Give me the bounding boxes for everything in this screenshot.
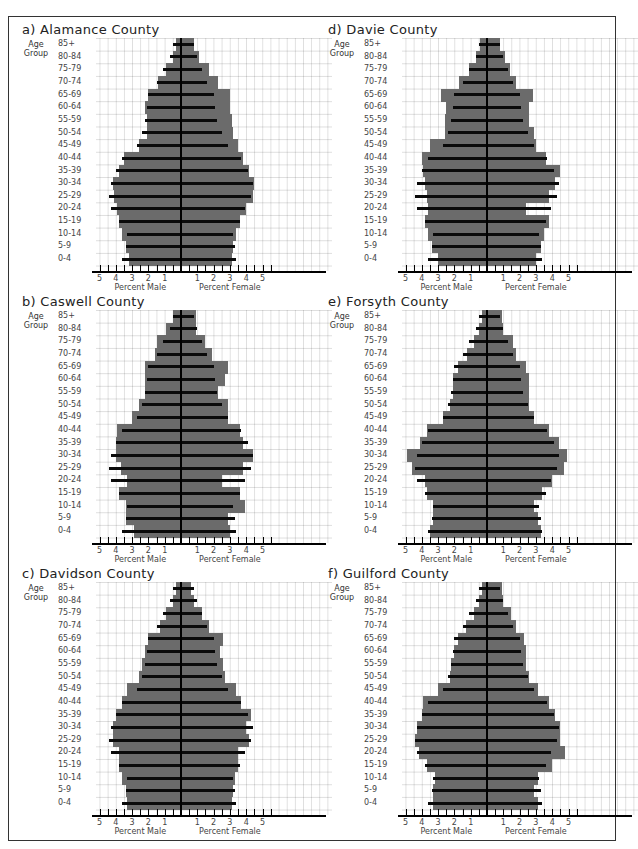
age-row-label: 20-24 [364, 203, 398, 212]
x-axis-tick [108, 265, 109, 271]
x-tick-label: 1 [468, 546, 473, 555]
x-tick-label: 4 [550, 818, 555, 827]
age-row-label: 55-59 [364, 115, 398, 124]
reference-bar [428, 701, 547, 704]
age-row-label: 50-54 [364, 400, 398, 409]
percent-female-label: Percent Female [505, 555, 567, 564]
x-axis-tick [157, 265, 158, 271]
reference-bar [469, 340, 508, 343]
age-row-label: 25-29 [364, 735, 398, 744]
age-row-label: 75-79 [58, 64, 92, 73]
age-row-label: 80-84 [364, 52, 398, 61]
x-axis-tick [487, 265, 488, 271]
age-row-label: 80-84 [364, 596, 398, 605]
reference-bar [428, 429, 547, 432]
reference-bar [443, 144, 534, 147]
age-row-label: 75-79 [364, 336, 398, 345]
x-axis-tick [511, 265, 512, 271]
x-tick-label: 2 [517, 546, 522, 555]
x-axis-tick [173, 265, 174, 271]
panel-title: f) Guilford County [328, 566, 449, 581]
x-axis-tick [173, 809, 174, 815]
age-row-label: 75-79 [58, 608, 92, 617]
x-axis-tick [271, 537, 272, 543]
age-row-label: 70-74 [364, 349, 398, 358]
reference-bar [422, 441, 554, 444]
age-row-label: 15-19 [364, 488, 398, 497]
reference-bar [173, 315, 194, 318]
x-axis-tick [454, 537, 455, 543]
age-row-label: 60-64 [364, 102, 398, 111]
x-axis-tick [181, 809, 182, 815]
reference-bar [116, 441, 248, 444]
percent-female-label: Percent Female [199, 283, 261, 292]
x-tick-label: 3 [436, 818, 441, 827]
age-row-label: 20-24 [364, 747, 398, 756]
x-tick-label: 4 [113, 818, 118, 827]
x-tick-label: 4 [113, 274, 118, 283]
age-row-label: 5-9 [364, 513, 398, 522]
x-axis-tick [100, 537, 101, 543]
x-axis-tick [181, 265, 182, 271]
age-row-label: 5-9 [58, 241, 92, 250]
age-row-label: 30-34 [58, 722, 92, 731]
x-axis-tick [577, 537, 578, 543]
x-tick-label: 1 [195, 818, 200, 827]
x-axis-tick [246, 809, 247, 815]
reference-bar [479, 587, 500, 590]
x-axis-tick [511, 537, 512, 543]
x-tick-label: 1 [195, 274, 200, 283]
x-axis-tick [414, 809, 415, 815]
x-axis-tick [438, 265, 439, 271]
age-row-label: 50-54 [364, 128, 398, 137]
center-axis-line [180, 310, 182, 543]
age-row-label: 50-54 [58, 400, 92, 409]
age-row-label: 20-24 [58, 747, 92, 756]
x-tick-label: 4 [550, 274, 555, 283]
x-axis-tick [503, 809, 504, 815]
reference-bar [142, 131, 222, 134]
x-axis-tick [263, 809, 264, 815]
reference-bar [417, 751, 551, 754]
x-axis-tick [254, 265, 255, 271]
x-tick-label: 5 [97, 274, 102, 283]
age-row-label: 70-74 [58, 621, 92, 630]
age-row-label: 30-34 [364, 178, 398, 187]
age-row-label: 35-39 [364, 438, 398, 447]
reference-bar [170, 327, 198, 330]
x-tick-label: 3 [436, 274, 441, 283]
pyramid-panel: f) Guilford CountyAge Group85+80-8475-79… [324, 566, 624, 838]
age-row-label: 5-9 [58, 785, 92, 794]
age-row-label: 35-39 [364, 710, 398, 719]
reference-bar [463, 625, 514, 628]
reference-bar [157, 353, 208, 356]
x-axis-tick [132, 537, 133, 543]
x-axis-tick [189, 809, 190, 815]
percent-female-label: Percent Female [505, 283, 567, 292]
age-row-label: 15-19 [58, 216, 92, 225]
x-axis-tick [205, 809, 206, 815]
x-tick-label: 2 [211, 274, 216, 283]
age-row-label: 5-9 [364, 785, 398, 794]
x-tick-label: 2 [452, 818, 457, 827]
x-axis-tick [552, 265, 553, 271]
x-tick-label: 3 [533, 274, 538, 283]
reference-bar [142, 675, 222, 678]
x-axis-tick [165, 537, 166, 543]
age-row-label: 75-79 [364, 64, 398, 73]
x-axis-tick [108, 537, 109, 543]
age-row-label: 25-29 [364, 191, 398, 200]
reference-bar [463, 81, 514, 84]
x-axis-tick [536, 265, 537, 271]
reference-bar [476, 327, 504, 330]
x-axis-tick [471, 537, 472, 543]
x-axis-tick [454, 809, 455, 815]
x-axis-line [398, 543, 632, 545]
x-axis-tick [197, 809, 198, 815]
reference-bar [137, 416, 228, 419]
x-axis-line [92, 815, 326, 817]
x-axis-tick [454, 265, 455, 271]
age-row-label: 35-39 [58, 166, 92, 175]
x-axis-tick [222, 537, 223, 543]
x-axis-tick [124, 537, 125, 543]
